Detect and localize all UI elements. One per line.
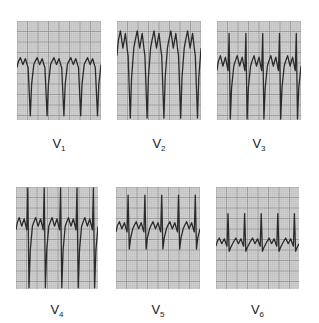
ecg-strip-v1	[17, 21, 101, 120]
lead-label-v1: V1	[29, 137, 89, 153]
lead-label-letter: V	[50, 302, 59, 317]
ecg-grid-and-trace	[17, 21, 101, 120]
ecg-grid-and-trace	[217, 21, 301, 120]
lead-label-number: 5	[160, 310, 164, 319]
ecg-trace-v4	[16, 188, 98, 288]
ecg-grid-and-trace	[16, 187, 98, 289]
lead-label-letter: V	[251, 302, 260, 317]
ecg-grid-and-trace	[216, 187, 299, 289]
lead-label-number: 1	[61, 144, 65, 153]
ecg-strip-v5	[116, 187, 200, 289]
ecg-strip-v6	[216, 187, 299, 289]
ecg-strip-v2	[117, 21, 201, 120]
lead-label-number: 4	[59, 310, 63, 319]
lead-label-letter: V	[52, 136, 61, 151]
ecg-grid-and-trace	[116, 187, 200, 289]
ecg-grid-and-trace	[117, 21, 201, 120]
lead-label-v3: V3	[229, 137, 289, 153]
ecg-strip-v3	[217, 21, 301, 120]
lead-label-number: 6	[260, 310, 264, 319]
lead-label-letter: V	[252, 136, 261, 151]
lead-label-number: 2	[161, 144, 165, 153]
lead-label-v4: V4	[27, 303, 87, 319]
lead-label-letter: V	[152, 136, 161, 151]
ecg-strip-v4	[16, 187, 98, 289]
lead-label-v6: V6	[228, 303, 288, 319]
lead-label-v2: V2	[129, 137, 189, 153]
lead-label-number: 3	[261, 144, 265, 153]
lead-label-v5: V5	[128, 303, 188, 319]
lead-label-letter: V	[151, 302, 160, 317]
